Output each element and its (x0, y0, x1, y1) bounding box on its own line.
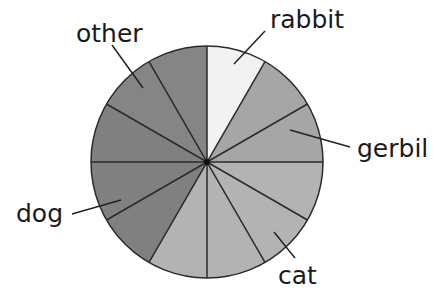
label-dog: dog (16, 199, 63, 228)
pie-chart: rabbit gerbil cat dog other (0, 0, 435, 294)
label-gerbil: gerbil (357, 134, 428, 163)
label-cat: cat (278, 261, 317, 290)
label-other: other (76, 19, 143, 48)
label-rabbit: rabbit (270, 5, 344, 34)
pie-center-dot (204, 159, 210, 165)
